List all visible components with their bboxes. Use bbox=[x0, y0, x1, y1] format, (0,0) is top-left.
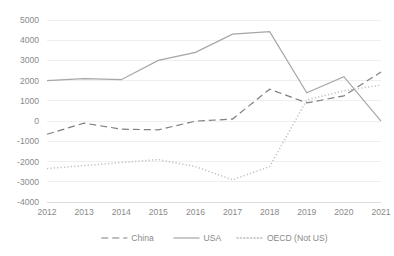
y-tick-label: 0 bbox=[34, 116, 39, 126]
x-tick-label: 2019 bbox=[297, 207, 316, 217]
chart-legend: ChinaUSAOECD (Not US) bbox=[101, 233, 327, 243]
y-tick-label: 2000 bbox=[20, 76, 39, 86]
legend-label[interactable]: OECD (Not US) bbox=[267, 233, 328, 243]
y-tick-label: -2000 bbox=[17, 157, 39, 167]
y-tick-label: -1000 bbox=[17, 136, 39, 146]
x-axis-tick-labels: 2012201320142015201620172018201920202021 bbox=[37, 207, 390, 217]
legend-label[interactable]: USA bbox=[204, 233, 222, 243]
series-line-china bbox=[47, 72, 381, 134]
data-series bbox=[47, 32, 381, 180]
x-tick-label: 2014 bbox=[112, 207, 131, 217]
y-tick-label: 4000 bbox=[20, 35, 39, 45]
y-tick-label: -3000 bbox=[17, 177, 39, 187]
y-tick-label: -4000 bbox=[17, 197, 39, 207]
x-tick-label: 2021 bbox=[371, 207, 390, 217]
series-line-oecd-not-us bbox=[47, 85, 381, 180]
x-tick-label: 2012 bbox=[37, 207, 56, 217]
series-line-usa bbox=[47, 32, 381, 121]
x-tick-label: 2020 bbox=[334, 207, 353, 217]
x-tick-label: 2015 bbox=[149, 207, 168, 217]
chart-container: 500040003000200010000-1000-2000-3000-400… bbox=[0, 0, 394, 256]
y-tick-label: 1000 bbox=[20, 96, 39, 106]
gridlines bbox=[47, 20, 381, 202]
y-tick-label: 3000 bbox=[20, 55, 39, 65]
y-tick-label: 5000 bbox=[20, 15, 39, 25]
y-axis-tick-labels: 500040003000200010000-1000-2000-3000-400… bbox=[17, 15, 39, 207]
x-tick-label: 2016 bbox=[186, 207, 205, 217]
legend-label[interactable]: China bbox=[131, 233, 154, 243]
x-tick-label: 2013 bbox=[75, 207, 94, 217]
x-tick-label: 2017 bbox=[223, 207, 242, 217]
x-tick-label: 2018 bbox=[260, 207, 279, 217]
line-chart: 500040003000200010000-1000-2000-3000-400… bbox=[0, 0, 394, 256]
